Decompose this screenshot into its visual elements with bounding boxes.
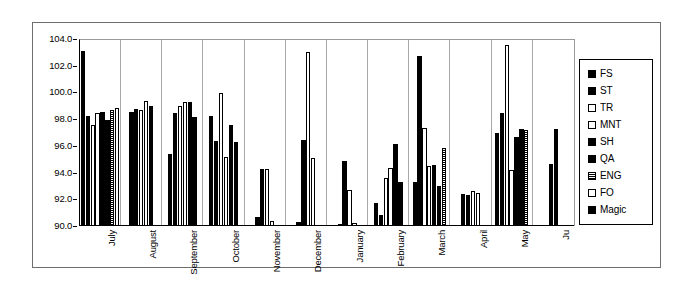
bar [374, 203, 378, 226]
x-tick-cell: February [368, 228, 409, 288]
bar [144, 101, 148, 226]
bar [427, 166, 431, 226]
bar [495, 133, 499, 226]
legend-swatch-icon [588, 172, 596, 180]
bar [347, 190, 351, 226]
x-tick-label: January [353, 230, 364, 262]
y-tick-label: 94.0 [54, 168, 72, 178]
bar [95, 113, 99, 226]
legend-item[interactable]: Magic [588, 201, 652, 218]
y-tick-mark [73, 66, 77, 67]
bar [192, 117, 196, 226]
plot-area [79, 39, 575, 226]
bar [549, 164, 553, 226]
x-tick-cell: Ju [534, 228, 575, 288]
bar-group [245, 40, 286, 226]
legend-item[interactable]: SH [588, 133, 652, 150]
bar-group [203, 40, 244, 226]
x-tick-label: November [270, 230, 281, 272]
bar [100, 112, 104, 226]
bar [209, 116, 213, 226]
x-tick-cell: March [410, 228, 451, 288]
legend-swatch-icon [588, 138, 596, 146]
x-tick-label: May [518, 230, 529, 247]
y-tick-label: 104.0 [49, 34, 72, 44]
y-tick-mark [73, 226, 77, 227]
bar [413, 182, 417, 226]
y-axis-labels: 104.0102.0100.098.096.094.092.090.0 [35, 39, 77, 226]
bar-groups [80, 40, 574, 226]
bar [306, 52, 310, 226]
y-tick-mark [73, 199, 77, 200]
bar [265, 169, 269, 226]
bar [432, 165, 436, 226]
x-tick-cell: July [79, 228, 120, 288]
x-tick-label: February [394, 230, 405, 266]
legend-label: FO [600, 188, 614, 198]
bar [524, 130, 528, 226]
legend-item[interactable]: FO [588, 184, 652, 201]
x-tick-cell: October [203, 228, 244, 288]
legend-swatch-icon [588, 155, 596, 163]
legend-swatch-icon [588, 206, 596, 214]
bar-group [327, 40, 368, 226]
bar [260, 169, 264, 226]
bar [422, 128, 426, 226]
x-tick-label: March [436, 230, 447, 255]
legend-item[interactable]: MNT [588, 116, 652, 133]
bar-group [533, 40, 574, 226]
bar [476, 193, 480, 226]
legend-item[interactable]: TR [588, 99, 652, 116]
chart-figure-frame: 104.0102.0100.098.096.094.092.090.0 July… [32, 22, 661, 268]
x-axis-labels: JulyAugustSeptemberOctoberNovemberDecemb… [79, 228, 575, 288]
legend-item[interactable]: QA [588, 150, 652, 167]
bar [129, 112, 133, 226]
x-tick-cell: January [327, 228, 368, 288]
bar [178, 106, 182, 226]
y-tick-mark [73, 39, 77, 40]
legend-swatch-icon [588, 104, 596, 112]
x-tick-cell: September [162, 228, 203, 288]
legend-item[interactable]: FS [588, 65, 652, 82]
legend-item[interactable]: ST [588, 82, 652, 99]
y-tick-mark [73, 173, 77, 174]
y-tick-label: 102.0 [49, 61, 72, 71]
bar [115, 108, 119, 226]
legend-swatch-icon [588, 189, 596, 197]
bar [311, 158, 315, 226]
bar [173, 113, 177, 226]
bar [134, 109, 138, 226]
y-tick-mark [73, 92, 77, 93]
x-tick-label: August [146, 230, 157, 258]
x-tick-cell: May [492, 228, 533, 288]
bar [514, 137, 518, 226]
bar [442, 148, 446, 226]
y-tick-label: 96.0 [54, 141, 72, 151]
y-tick-mark [73, 146, 77, 147]
bar [384, 178, 388, 226]
plot-area-wrapper: 104.0102.0100.098.096.094.092.090.0 [79, 39, 575, 226]
bar-group [409, 40, 450, 226]
legend-item[interactable]: ENG [588, 167, 652, 184]
bar [398, 182, 402, 226]
bar [234, 142, 238, 226]
x-tick-cell: April [451, 228, 492, 288]
x-tick-label: October [229, 230, 240, 262]
bar [342, 161, 346, 226]
bar [91, 125, 95, 226]
legend-label: Magic [600, 205, 626, 215]
bar [219, 93, 223, 226]
bar [81, 51, 85, 226]
legend-label: MNT [600, 120, 621, 130]
bar [509, 170, 513, 226]
legend-label: ST [600, 86, 613, 96]
bar [183, 102, 187, 226]
y-tick-label: 100.0 [49, 88, 72, 98]
bar [437, 186, 441, 226]
x-tick-label: April [477, 230, 488, 248]
bar [554, 129, 558, 226]
bar-group [162, 40, 203, 226]
bar-group [492, 40, 533, 226]
bar-group [368, 40, 409, 226]
bar [86, 116, 90, 226]
